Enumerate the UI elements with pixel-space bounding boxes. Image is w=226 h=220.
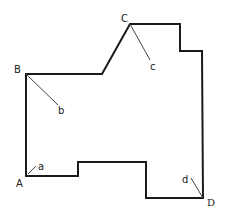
- leader-line-b: [26, 74, 58, 105]
- vertex-label-b: B: [14, 64, 21, 75]
- vertex-c: Cc: [121, 13, 156, 72]
- vertex-b: Bb: [14, 64, 64, 116]
- vertex-label-c: C: [121, 13, 128, 24]
- sub-label-b: b: [58, 105, 64, 116]
- polygon-outline: [26, 24, 203, 198]
- leader-line-d: [191, 178, 203, 198]
- sub-label-d: d: [182, 174, 188, 185]
- sub-label-a: a: [38, 161, 44, 172]
- leader-line-a: [28, 166, 36, 174]
- vertex-label-d: D: [207, 197, 215, 208]
- floor-plan-diagram: AaBbCcDd: [0, 0, 226, 220]
- vertex-annotations: AaBbCcDd: [14, 13, 215, 208]
- vertex-label-a: A: [16, 178, 23, 189]
- vertex-d: Dd: [182, 174, 215, 208]
- leader-line-c: [130, 24, 150, 60]
- sub-label-c: c: [150, 61, 156, 72]
